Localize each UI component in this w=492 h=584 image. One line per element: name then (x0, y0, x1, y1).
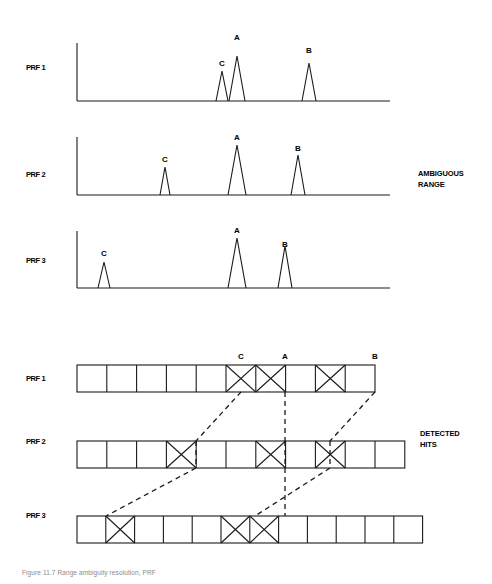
peak-label-prf2-c: C (158, 155, 172, 164)
bin-column-label-c: C (234, 352, 248, 361)
bin-column-label-b: B (368, 352, 382, 361)
detected-hits-line1: DETECTED (420, 428, 460, 439)
correlation-line-b (330, 392, 375, 441)
echo-peak-1-b (302, 63, 316, 101)
correlation-line-c (196, 392, 241, 441)
correlation-line-b (255, 468, 330, 516)
echo-peak-3-c (98, 262, 110, 288)
peak-label-prf3-b: B (278, 240, 292, 249)
peak-label-prf3-c: C (97, 249, 111, 258)
bin-row-label-prf2: PRF 2 (26, 437, 45, 446)
peak-label-prf2-b: B (291, 144, 305, 153)
correlation-line-c (106, 468, 196, 516)
echo-peak-3-a (228, 238, 246, 288)
bin-row-label-prf3: PRF 3 (26, 511, 45, 520)
peak-label-prf1-b: B (302, 46, 316, 55)
echo-peak-2-a (228, 145, 246, 195)
detected-hits-label: DETECTED HITS (420, 428, 460, 450)
waveform-row-label-prf2: PRF 2 (26, 170, 45, 179)
peak-label-prf3-a: A (230, 226, 244, 235)
bin-column-label-a: A (278, 352, 292, 361)
bin-row-outline-2 (77, 441, 405, 468)
ambiguous-range-label: AMBIGUOUS RANGE (418, 168, 464, 190)
figure-caption: Figure 11.7 Range ambiguity resolution, … (22, 569, 156, 576)
radar-prf-ambiguity-figure: PRF 1 PRF 2 PRF 3 PRF 1 PRF 2 PRF 3 AMBI… (0, 0, 492, 584)
peak-label-prf1-a: A (230, 33, 244, 42)
peak-label-prf1-c: C (215, 59, 229, 68)
waveform-row-label-prf3: PRF 3 (26, 256, 45, 265)
figure-canvas (0, 0, 492, 584)
ambiguous-range-line2: RANGE (418, 179, 464, 190)
echo-peak-2-b (291, 155, 305, 195)
ambiguous-range-line1: AMBIGUOUS (418, 168, 464, 179)
echo-peak-1-c (216, 71, 228, 101)
peak-label-prf2-a: A (230, 133, 244, 142)
detected-hits-line2: HITS (420, 439, 460, 450)
waveform-row-label-prf1: PRF 1 (26, 63, 45, 72)
bin-row-label-prf1: PRF 1 (26, 374, 45, 383)
echo-peak-3-b (278, 246, 292, 288)
echo-peak-2-c (160, 167, 170, 195)
echo-peak-1-a (229, 56, 245, 101)
